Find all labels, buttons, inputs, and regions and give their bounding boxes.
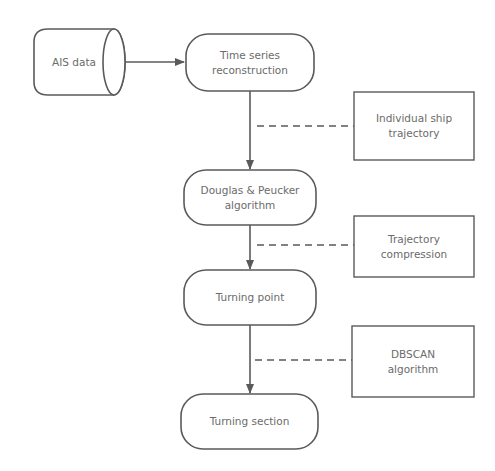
turning-point-node: Turning point	[184, 270, 316, 325]
compression-line2: compression	[381, 247, 448, 262]
individual-trajectory-box: Individual ship trajectory	[354, 92, 474, 160]
dbscan-line2: algorithm	[388, 362, 439, 377]
compression-line1: Trajectory	[388, 232, 440, 247]
turning-point-text: Turning point	[216, 290, 285, 305]
dbscan-box: DBSCAN algorithm	[352, 326, 474, 397]
time-series-line2: reconstruction	[212, 63, 288, 78]
douglas-line2: algorithm	[225, 198, 276, 213]
turning-section-node: Turning section	[181, 394, 318, 449]
ais-data-label: AIS data	[34, 29, 114, 95]
douglas-line1: Douglas & Peucker	[201, 183, 300, 198]
individual-line2: trajectory	[388, 126, 439, 141]
time-series-line1: Time series	[220, 48, 280, 63]
douglas-node: Douglas & Peucker algorithm	[184, 170, 316, 225]
individual-line1: Individual ship	[376, 111, 452, 126]
time-series-node: Time series reconstruction	[186, 34, 314, 91]
compression-box: Trajectory compression	[354, 216, 474, 277]
dbscan-line1: DBSCAN	[391, 347, 435, 362]
turning-section-text: Turning section	[210, 414, 290, 429]
ais-data-text: AIS data	[52, 55, 96, 70]
